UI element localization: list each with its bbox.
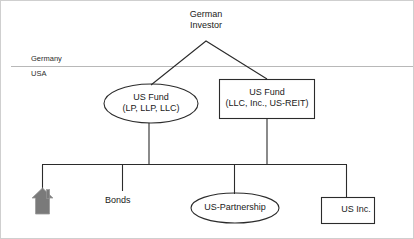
node-us-partnership[interactable]: US-Partnership [191, 202, 279, 213]
node-bonds[interactable]: Bonds [105, 195, 131, 206]
node-us-inc[interactable]: US Inc. [331, 204, 381, 215]
node-german-investor-line2: Investor [171, 20, 241, 31]
region-label-usa: USA [31, 69, 46, 78]
node-us-fund-ellipse-line1: US Fund [106, 92, 196, 103]
node-us-fund-box-line1: US Fund [221, 87, 313, 98]
node-us-fund-box[interactable]: US Fund (LLC, Inc., US-REIT) [221, 87, 313, 109]
node-german-investor[interactable]: German Investor [171, 9, 241, 31]
house-icon [32, 188, 53, 214]
node-us-fund-ellipse-line2: (LP, LLP, LLC) [106, 103, 196, 114]
diagram-canvas: Germany USA German Investor US Fund (LP,… [0, 0, 414, 239]
node-us-fund-box-line2: (LLC, Inc., US-REIT) [221, 98, 313, 109]
investor-branch-lines [151, 41, 267, 85]
node-german-investor-line1: German [171, 9, 241, 20]
node-us-fund-ellipse[interactable]: US Fund (LP, LLP, LLC) [106, 92, 196, 114]
region-label-germany: Germany [31, 54, 62, 63]
